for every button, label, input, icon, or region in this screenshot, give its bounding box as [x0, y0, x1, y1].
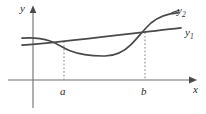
tick-label-a: a: [60, 86, 66, 97]
curve-label-y2: y2: [177, 5, 186, 19]
curve-label-y2-subscript: 2: [182, 10, 186, 19]
curve-label-y1-subscript: 1: [190, 32, 194, 41]
graph-canvas: [0, 0, 206, 114]
y-axis-label: y: [20, 3, 25, 14]
figure-container: y x y1 y2 a b: [0, 0, 206, 114]
tick-label-b: b: [141, 86, 147, 97]
curve-label-y1: y1: [185, 27, 194, 41]
x-axis-label: x: [193, 84, 198, 95]
up-arrow-icon: [30, 6, 37, 14]
curve-y2: [22, 13, 178, 56]
curve-y1: [22, 28, 181, 45]
